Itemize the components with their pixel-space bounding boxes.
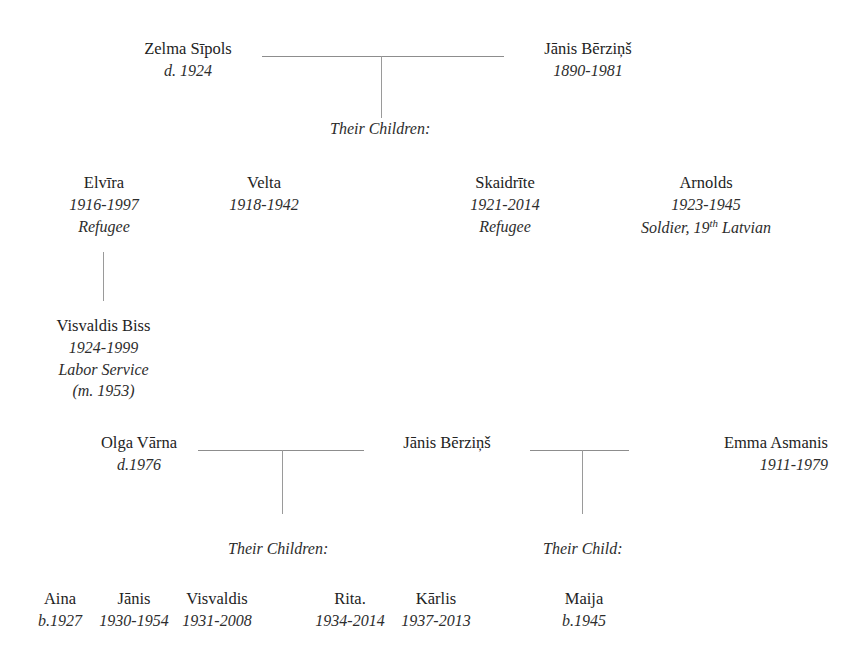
person-dates: d. 1924 [118,60,258,81]
person-visvaldis-biss: Visvaldis Biss 1924-1999 Labor Service (… [26,315,181,401]
person-name: Jānis Bērziņš [362,432,532,454]
person-dates: 1916-1997 [40,194,168,215]
descent-line-janis-emma [582,450,583,514]
person-skaidrite: Skaidrīte 1921-2014 Refugee [440,172,570,237]
person-dates: 1921-2014 [440,194,570,215]
person-dates: 1937-2013 [398,610,474,631]
person-name: Aina [24,588,96,610]
person-name: Zelma Sīpols [118,38,258,60]
person-velta: Velta 1918-1942 [200,172,328,216]
person-dates: 1931-2008 [176,610,258,631]
person-olga-varna: Olga Vārna d.1976 [78,432,200,476]
person-dates: 1911-1979 [628,454,828,475]
person-janis-berzins-gen3: Jānis Bērziņš [362,432,532,454]
person-elvira: Elvīra 1916-1997 Refugee [40,172,168,237]
person-name: Visvaldis Biss [26,315,181,337]
person-dates: b.1927 [24,610,96,631]
marriage-line-elvira-biss [103,252,104,301]
person-dates: 1890-1981 [503,60,673,81]
person-note: Refugee [40,216,168,237]
person-dates: 1930-1954 [98,610,170,631]
person-note-superscript: th [710,217,718,229]
descent-line-olga-janis [282,450,283,514]
person-note-prefix: Soldier, 19 [641,219,709,236]
person-name: Elvīra [40,172,168,194]
person-note-suffix: Latvian [718,219,771,236]
person-note: Refugee [440,216,570,237]
person-janis-gen4: Jānis 1930-1954 [98,588,170,632]
person-rita: Rita. 1934-2014 [312,588,388,632]
person-dates: b.1945 [546,610,622,631]
person-name: Kārlis [398,588,474,610]
person-name: Jānis [98,588,170,610]
person-dates: 1934-2014 [312,610,388,631]
person-name: Velta [200,172,328,194]
person-name: Arnolds [604,172,808,194]
person-name: Maija [546,588,622,610]
person-name: Jānis Bērziņš [503,38,673,60]
person-name: Olga Vārna [78,432,200,454]
person-karlis: Kārlis 1937-2013 [398,588,474,632]
person-maija: Maija b.1945 [546,588,622,632]
person-note: Labor Service [26,359,181,380]
marriage-line-olga-janis [198,450,364,451]
person-name: Skaidrīte [440,172,570,194]
marriage-line-janis-emma [530,450,629,451]
person-visvaldis-gen4: Visvaldis 1931-2008 [176,588,258,632]
their-children-label-gen3-left: Their Children: [228,540,328,558]
person-zelma-sipols: Zelma Sīpols d. 1924 [118,38,258,82]
person-marriage-year: (m. 1953) [26,380,181,401]
person-aina: Aina b.1927 [24,588,96,632]
person-name: Rita. [312,588,388,610]
person-emma-asmanis: Emma Asmanis 1911-1979 [628,432,828,476]
person-note: Soldier, 19th Latvian [604,216,808,239]
person-dates: 1924-1999 [26,337,181,358]
person-name: Emma Asmanis [628,432,828,454]
family-tree-chart: Zelma Sīpols d. 1924 Jānis Bērziņš 1890-… [0,0,865,656]
their-child-label-gen3-right: Their Child: [543,540,623,558]
marriage-line-gen1 [262,56,504,57]
descent-line-gen1 [381,56,382,118]
person-name: Visvaldis [176,588,258,610]
person-dates: 1923-1945 [604,194,808,215]
their-children-label-gen1: Their Children: [330,120,430,138]
person-dates: 1918-1942 [200,194,328,215]
person-dates: d.1976 [78,454,200,475]
person-arnolds: Arnolds 1923-1945 Soldier, 19th Latvian [604,172,808,238]
person-janis-berzins-gen1: Jānis Bērziņš 1890-1981 [503,38,673,82]
